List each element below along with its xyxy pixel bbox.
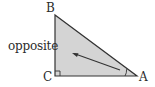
vertex-label-c: C bbox=[43, 71, 52, 83]
vertex-label-a: A bbox=[139, 71, 148, 83]
vertex-label-b: B bbox=[46, 2, 55, 14]
side-label-opposite: opposite bbox=[8, 40, 58, 52]
triangle-shape bbox=[55, 15, 137, 76]
triangle-diagram: B C A opposite bbox=[0, 0, 155, 87]
